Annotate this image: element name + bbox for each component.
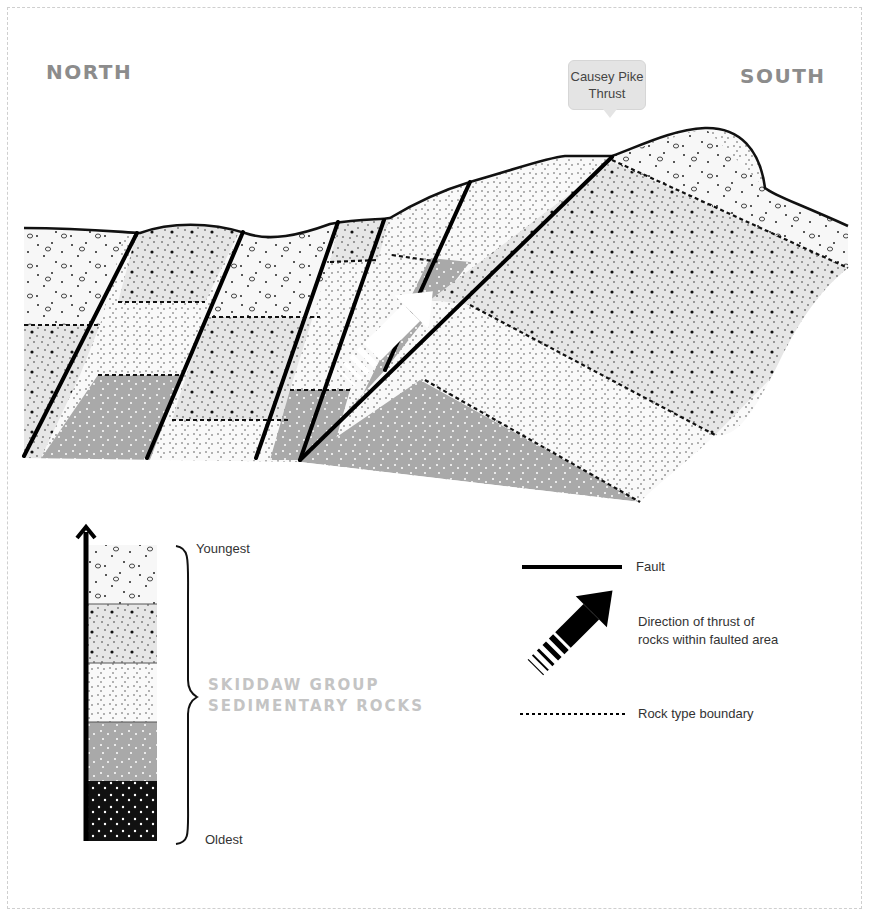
column-layer-4 (86, 722, 157, 781)
callout-line-2: Thrust (569, 85, 645, 102)
column-layer-3 (86, 663, 157, 722)
fault-legend-label: Fault (636, 559, 665, 574)
thrust-arrow-legend-icon (520, 575, 628, 683)
thrust-legend-label: Direction of thrust of rocks within faul… (638, 613, 778, 649)
column-layer-2 (86, 604, 157, 663)
thrust-legend-line-2: rocks within faulted area (638, 631, 778, 649)
group-label-line-1: SKIDDAW GROUP (208, 675, 424, 696)
stratigraphic-column (86, 545, 157, 841)
curly-brace-icon (176, 546, 197, 844)
youngest-label: Youngest (196, 541, 250, 556)
rock-layers (0, 100, 872, 520)
causey-pike-thrust-callout: Causey Pike Thrust (568, 60, 646, 110)
column-layer-5 (86, 781, 157, 841)
cross-section-diagram (0, 0, 872, 920)
boundary-legend-label: Rock type boundary (638, 706, 754, 721)
group-label-line-2: SEDIMENTARY ROCKS (208, 696, 424, 717)
skiddaw-group-label: SKIDDAW GROUP SEDIMENTARY ROCKS (208, 675, 424, 717)
callout-line-1: Causey Pike (569, 68, 645, 85)
column-layer-1 (86, 545, 157, 604)
oldest-label: Oldest (205, 832, 243, 847)
thrust-legend-line-1: Direction of thrust of (638, 613, 778, 631)
